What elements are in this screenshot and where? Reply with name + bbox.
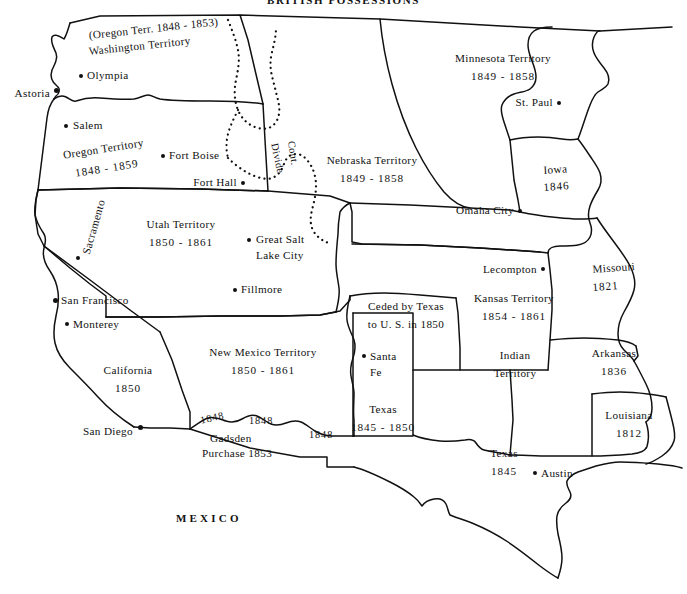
state-label-texas-years: 1845 <box>491 464 517 479</box>
city-dot-san-francisco <box>53 298 58 303</box>
territory-label-utah-years: 1850 - 1861 <box>149 235 213 250</box>
rio-grande-border <box>354 467 558 578</box>
city-label-san-francisco: San Francisco <box>61 293 129 308</box>
city-dot-olympia <box>79 74 83 78</box>
arkansas-south-border <box>510 448 646 456</box>
territory-label-new-mexico: New Mexico Territory <box>209 345 316 360</box>
country-label-mexico: MEXICO <box>176 511 242 526</box>
territory-label-nebraska-years: 1849 - 1858 <box>340 171 404 186</box>
city-dot-omaha-city <box>518 209 522 213</box>
washington-oregon-border <box>54 95 263 104</box>
city-dot-salem <box>64 124 68 128</box>
city-label-st-paul: St. Paul <box>515 95 553 110</box>
city-label-santa-fe-2: Fe <box>370 365 382 380</box>
city-label-fort-hall: Fort Hall <box>193 175 237 190</box>
city-dot-fort-hall <box>241 181 245 185</box>
new-mexico-north-border <box>106 296 350 317</box>
state-label-iowa: Iowa <box>543 161 568 177</box>
city-dot-st-paul <box>557 101 561 105</box>
arkansas-louisiana-join <box>646 422 648 448</box>
border-year-1848-east: 1848 <box>309 428 333 442</box>
missouri-south-border <box>550 338 636 346</box>
city-label-great-salt-lake-city-2: Lake City <box>256 248 304 263</box>
iowa-west-border <box>510 140 520 212</box>
city-label-san-diego: San Diego <box>83 424 133 439</box>
city-label-omaha-city: Omaha City <box>456 203 514 218</box>
louisiana-north-border <box>592 392 666 397</box>
historical-map: BRITISH POSSESSIONS <box>0 0 687 594</box>
territory-label-minnesota-years: 1849 - 1858 <box>471 69 535 84</box>
city-dot-fillmore <box>233 288 237 292</box>
city-label-austin: Austin <box>541 466 573 481</box>
city-dot-lecompton <box>541 267 545 271</box>
city-label-santa-fe-1: Santa <box>370 349 397 364</box>
kansas-east-border <box>548 253 552 370</box>
annotation-ceded-by-texas-1: Ceded by Texas <box>368 299 444 314</box>
washington-east-border <box>240 15 263 104</box>
territory-label-nebraska: Nebraska Territory <box>327 153 418 168</box>
territory-label-kansas: Kansas Territory <box>474 291 554 306</box>
city-dot-sacramento <box>76 256 80 260</box>
city-label-fort-boise: Fort Boise <box>169 148 219 163</box>
oregon-coast <box>38 99 54 190</box>
state-label-california-years: 1850 <box>115 381 141 396</box>
annotation-gadsden-1: Gadsden <box>210 431 252 446</box>
kansas-north-border <box>352 244 548 253</box>
state-label-louisiana: Louisiana <box>605 408 652 423</box>
state-label-iowa-years: 1846 <box>543 178 570 195</box>
gulf-coast <box>557 462 682 578</box>
territory-label-new-mexico-years: 1850 - 1861 <box>231 363 295 378</box>
city-dot-fort-boise <box>161 154 165 158</box>
city-dot-austin <box>533 471 537 475</box>
utah-north-border <box>38 188 350 203</box>
territory-label-minnesota: Minnesota Territory <box>455 51 551 66</box>
new-mexico-east-border <box>347 296 355 436</box>
city-dot-san-diego <box>138 425 143 430</box>
city-label-olympia: Olympia <box>87 68 129 83</box>
territory-label-utah: Utah Territory <box>147 217 216 232</box>
state-label-missouri: Missouri <box>592 259 636 277</box>
city-label-astoria: Astoria <box>15 86 50 101</box>
city-dot-monterey <box>65 322 69 326</box>
city-label-lecompton: Lecompton <box>483 262 537 277</box>
city-label-monterey: Monterey <box>73 317 119 332</box>
utah-east-border <box>336 203 350 312</box>
city-dot-great-salt-lake-city <box>247 238 251 242</box>
annotation-ceded-by-texas-2: to U. S. in 1850 <box>368 317 444 332</box>
border-year-1848-mid: 1848 <box>249 414 273 428</box>
indian-territory-east-border <box>510 370 513 455</box>
ceded-texas-east-border <box>456 298 460 370</box>
territory-label-indian-2: Territory <box>494 366 537 381</box>
city-dot-santa-fe <box>362 354 366 358</box>
city-dot-astoria <box>54 88 59 93</box>
territory-label-texas-claim-years: 1845 - 1850 <box>351 420 415 435</box>
city-label-salem: Salem <box>73 118 103 133</box>
state-label-arkansas: Arkansas <box>592 346 636 361</box>
state-label-texas: Texas <box>490 446 518 461</box>
territory-label-kansas-years: 1854 - 1861 <box>482 309 546 324</box>
california-southeast-diagonal <box>160 332 190 429</box>
state-label-arkansas-years: 1836 <box>601 364 627 379</box>
territory-label-texas-claim: Texas <box>369 402 397 417</box>
state-label-california: California <box>104 363 153 378</box>
iowa-south-border <box>520 212 597 219</box>
iowa-east-border <box>548 139 601 253</box>
iowa-north-border <box>510 137 578 140</box>
state-label-missouri-years: 1821 <box>592 278 619 295</box>
annotation-gadsden-2: Purchase 1853 <box>202 446 272 461</box>
state-label-louisiana-years: 1812 <box>616 426 642 441</box>
city-label-fillmore: Fillmore <box>241 282 282 297</box>
city-label-great-salt-lake-city-1: Great Salt <box>256 232 305 247</box>
utah-south-border <box>106 312 336 317</box>
continental-divide-line <box>227 20 333 244</box>
minnesota-east-border <box>578 31 609 139</box>
ceded-texas-north-border <box>350 293 456 298</box>
territory-label-indian-1: Indian <box>500 348 531 363</box>
